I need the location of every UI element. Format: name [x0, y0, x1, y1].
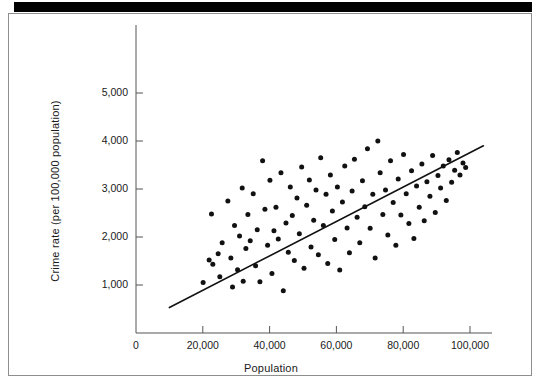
data-point [316, 252, 321, 257]
data-point [342, 163, 347, 168]
data-point [422, 218, 427, 223]
data-point [318, 155, 323, 160]
data-point [276, 236, 281, 241]
data-point [217, 274, 222, 279]
data-point [220, 240, 225, 245]
data-point [398, 212, 403, 217]
data-point [251, 191, 256, 196]
data-point [299, 164, 304, 169]
data-point [365, 146, 370, 151]
data-point [455, 150, 460, 155]
data-point [396, 176, 401, 181]
data-point [201, 280, 206, 285]
data-point [237, 234, 242, 239]
data-point [262, 207, 267, 212]
data-point [368, 226, 373, 231]
data-point [391, 200, 396, 205]
data-point [210, 262, 215, 267]
data-point [248, 238, 253, 243]
data-point [401, 152, 406, 157]
data-point [463, 165, 468, 170]
data-point [309, 245, 314, 250]
data-point [457, 173, 462, 178]
data-point [216, 251, 221, 256]
data-point [409, 168, 414, 173]
trend-line [169, 146, 483, 308]
data-point [352, 157, 357, 162]
data-point [460, 161, 465, 166]
data-point [446, 157, 451, 162]
y-axis-title: Crime rate (per 100,000 population) [49, 81, 61, 301]
data-point [360, 178, 365, 183]
data-point [225, 199, 230, 204]
data-point [424, 179, 429, 184]
data-point [245, 212, 250, 217]
y-tick-label: 2,000 [70, 230, 128, 242]
x-axis-ticks [203, 326, 470, 333]
y-axis-ticks [136, 93, 143, 285]
data-point [209, 211, 214, 216]
data-point [433, 210, 438, 215]
data-point [255, 227, 260, 232]
data-point [380, 212, 385, 217]
data-point [230, 284, 235, 289]
data-point [278, 170, 283, 175]
data-point [427, 194, 432, 199]
data-point [438, 186, 443, 191]
data-point [393, 243, 398, 248]
data-point [283, 221, 288, 226]
data-point [269, 271, 274, 276]
data-point [452, 168, 457, 173]
data-point [260, 158, 265, 163]
data-point [375, 139, 380, 144]
y-tick-label: 3,000 [70, 182, 128, 194]
x-axis-title: Population [0, 362, 542, 374]
data-point [332, 237, 337, 242]
x-tick-label: 100,000 [430, 339, 510, 351]
data-point [281, 288, 286, 293]
data-point [328, 173, 333, 178]
data-point [337, 268, 342, 273]
data-point [347, 250, 352, 255]
data-point [257, 279, 262, 284]
data-point [335, 185, 340, 190]
data-point [378, 170, 383, 175]
data-point [385, 233, 390, 238]
data-point [411, 236, 416, 241]
data-point [273, 205, 278, 210]
data-point [350, 188, 355, 193]
data-point [286, 250, 291, 255]
data-point [325, 261, 330, 266]
data-point [297, 231, 302, 236]
data-point [370, 192, 375, 197]
data-point [228, 256, 233, 261]
data-point [404, 191, 409, 196]
data-point [267, 178, 272, 183]
data-point [430, 153, 435, 158]
data-point [449, 180, 454, 185]
data-point [373, 256, 378, 261]
data-point [288, 185, 293, 190]
data-point [355, 215, 360, 220]
data-point [324, 192, 329, 197]
data-point [265, 243, 270, 248]
data-point [294, 196, 299, 201]
data-point [241, 279, 246, 284]
figure-container: Population Crime rate (per 100,000 popul… [0, 0, 542, 389]
data-point [232, 223, 237, 228]
data-point [240, 186, 245, 191]
data-point [419, 162, 424, 167]
data-point [311, 218, 316, 223]
scatter-plot [0, 0, 542, 389]
data-point [444, 198, 449, 203]
data-point [357, 240, 362, 245]
data-point [345, 225, 350, 230]
data-point [207, 258, 212, 263]
data-point [292, 258, 297, 263]
data-point [340, 199, 345, 204]
data-point [304, 203, 309, 208]
y-tick-label: 4,000 [70, 134, 128, 146]
data-point [383, 187, 388, 192]
data-point [243, 246, 248, 251]
data-point [417, 205, 422, 210]
